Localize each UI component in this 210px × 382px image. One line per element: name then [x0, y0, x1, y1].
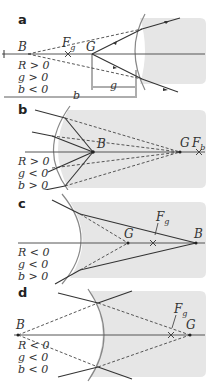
- medium-region: [90, 291, 206, 377]
- label-F: Fg: [61, 36, 75, 52]
- panel-letter: b: [18, 102, 27, 117]
- label-dim-b: b: [73, 89, 80, 100]
- panel-c: c G Fg B R < 0 g < 0 b > 0: [0, 190, 210, 285]
- condition-b: b < 0: [18, 83, 48, 96]
- panel-a: a B Fg G R > 0 g > 0 b < 0 g b: [0, 0, 210, 100]
- image-point: [91, 150, 95, 154]
- label-dim-g: g: [110, 79, 117, 92]
- condition-b: b > 0: [18, 270, 48, 283]
- label-B: B: [193, 227, 203, 241]
- arrow-icon: [113, 41, 117, 45]
- label-B: B: [17, 40, 27, 54]
- condition-b: b > 0: [18, 179, 48, 190]
- label-G: G: [124, 227, 134, 241]
- medium-region: [140, 18, 206, 84]
- panel-letter: d: [18, 285, 27, 300]
- label-B: B: [96, 137, 106, 151]
- ray: [92, 54, 142, 79]
- panel-letter: c: [18, 196, 26, 211]
- dashed-ray: [28, 29, 142, 54]
- panel-b: b B G Fb R > 0 g < 0 b > 0: [0, 100, 210, 190]
- label-G: G: [86, 40, 96, 54]
- object-point: [179, 151, 182, 154]
- panel-d: d B Fg G R < 0 g < 0 b < 0: [0, 285, 210, 382]
- label-B: B: [15, 318, 25, 332]
- label-G: G: [186, 318, 196, 332]
- condition-b: b < 0: [18, 363, 48, 376]
- panel-letter: a: [18, 12, 27, 27]
- label-G: G: [180, 136, 190, 150]
